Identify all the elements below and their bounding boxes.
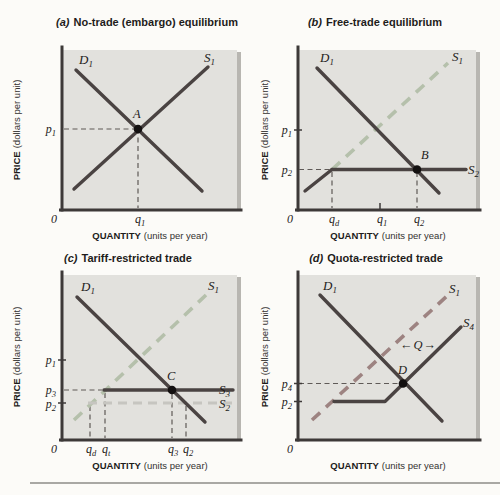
label-q3-c: q3	[168, 442, 178, 458]
label-qd-c: qd	[86, 442, 97, 458]
label-q2-c: q2	[183, 442, 194, 458]
panel-d-title: (d)Quota-restricted trade	[309, 252, 443, 264]
equilibrium-point-c	[168, 386, 177, 395]
equilibrium-point-d	[399, 379, 408, 388]
y-axis-title-c: PRICE(dollars per unit)	[11, 307, 22, 408]
label-q1-b: q1	[377, 212, 387, 228]
origin-label-b: 0	[287, 212, 293, 226]
label-point-b: B	[421, 148, 429, 162]
plot-shadow-c	[237, 277, 241, 440]
label-p4-d: p4	[281, 377, 293, 393]
label-p1-b: p1	[281, 123, 292, 139]
y-axis-title-d: PRICE(dollars per unit)	[259, 307, 270, 408]
plot-shadow-d	[476, 277, 480, 440]
panel-c-title: (c)Tariff-restricted trade	[64, 252, 192, 264]
quota-left-arrow-icon: ←	[400, 338, 413, 352]
label-qd-b: qd	[329, 212, 340, 228]
x-axis-title-b: QUANTITY(units per year)	[330, 230, 445, 241]
origin-label-a: 0	[51, 212, 57, 226]
label-point-c: C	[167, 369, 176, 383]
equilibrium-point-a	[134, 125, 143, 134]
x-axis-title-d: QUANTITY(units per year)	[330, 460, 445, 471]
origin-label-d: 0	[287, 442, 293, 456]
x-axis-title-a: QUANTITY(units per year)	[92, 230, 207, 241]
plot-shadow-a	[237, 52, 241, 210]
trade-equilibrium-figure: (a)No-trade (embargo) equilibrium D1 S1 …	[0, 0, 500, 495]
label-point-a: A	[132, 107, 141, 121]
label-p2-b: p2	[281, 163, 293, 179]
y-axis-title-a: PRICE(dollars per unit)	[11, 80, 22, 181]
label-q1-a: q1	[135, 212, 145, 228]
label-p2-d: p2	[281, 395, 293, 411]
plot-area-a	[62, 50, 237, 210]
quota-right-arrow-icon: →	[424, 338, 437, 352]
plot-area-c	[62, 275, 237, 440]
panel-b-title: (b)Free-trade equilibrium	[308, 16, 442, 28]
label-qt-c: qt	[102, 442, 111, 458]
origin-label-c: 0	[51, 442, 57, 456]
label-p1-c: p1	[45, 353, 56, 369]
panel-a-title: (a)No-trade (embargo) equilibrium	[56, 16, 238, 28]
panel-d: (d)Quota-restricted trade ←Q→ D1 S1 S4 D…	[259, 252, 480, 471]
label-point-d: D	[397, 363, 407, 377]
x-axis-title-c: QUANTITY(units per year)	[92, 460, 207, 471]
panel-a: (a)No-trade (embargo) equilibrium D1 S1 …	[11, 16, 241, 241]
equilibrium-point-b	[413, 165, 422, 174]
panel-c: (c)Tariff-restricted trade D1 S1 S3 S2 C…	[11, 252, 241, 471]
panel-b: (b)Free-trade equilibrium D1 S1 S2 B p1 …	[259, 16, 480, 241]
label-p1-a: p1	[45, 122, 56, 138]
quota-annotation: ←Q→	[400, 338, 436, 352]
y-axis-title-b: PRICE(dollars per unit)	[259, 80, 270, 181]
plot-shadow-b	[476, 52, 480, 210]
label-q2-b: q2	[414, 212, 425, 228]
label-p2-c: p2	[45, 397, 57, 413]
